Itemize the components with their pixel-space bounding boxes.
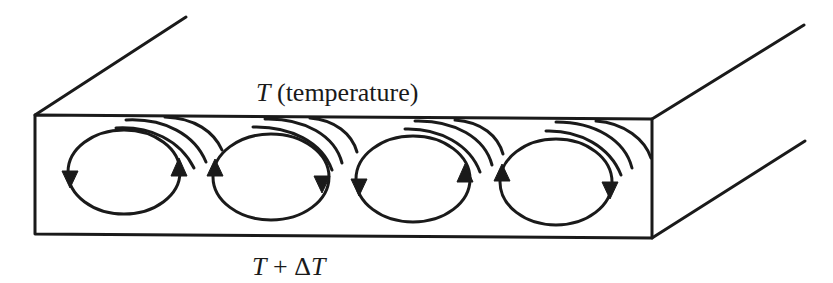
convection-cell-1 <box>62 117 222 214</box>
slab-top-right-edge <box>652 25 804 119</box>
temperature-symbol: T <box>252 252 266 281</box>
arrow-down-icon <box>62 171 78 188</box>
convection-diagram <box>0 0 833 283</box>
convection-cell-3 <box>351 120 503 222</box>
temperature-description: (temperature) <box>277 78 418 107</box>
slab-top-left-edge <box>35 17 186 115</box>
arrow-up-icon <box>171 158 187 176</box>
plus-operator: + <box>273 252 288 281</box>
arrow-up-icon <box>494 164 510 181</box>
top-temperature-label: T (temperature) <box>256 80 418 106</box>
slab-bottom-right-edge <box>652 141 805 238</box>
arrow-down-icon <box>351 179 367 196</box>
cell-loop <box>68 130 180 214</box>
convection-cell-2 <box>207 118 357 220</box>
bottom-temperature-label: T + ΔT <box>252 254 325 280</box>
arrow-up-icon <box>207 159 223 176</box>
streamline-arc <box>126 120 206 162</box>
slab-outline <box>35 17 805 238</box>
cell-loop <box>500 139 612 225</box>
arrow-down-icon <box>602 182 618 199</box>
temperature-symbol: T <box>256 78 270 107</box>
cell-loop <box>356 136 470 222</box>
convection-cell-4 <box>494 121 651 225</box>
temperature-symbol: T <box>311 252 325 281</box>
delta-symbol: Δ <box>294 252 311 281</box>
slab-front-face <box>35 115 652 238</box>
cell-loop <box>213 134 329 220</box>
